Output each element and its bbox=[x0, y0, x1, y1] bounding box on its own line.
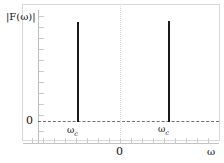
x-axis-label: ω bbox=[207, 147, 215, 157]
x-axis-tick bbox=[153, 138, 154, 143]
y-axis-line bbox=[38, 10, 39, 143]
y-axis-label: |F(ω)| bbox=[6, 12, 36, 22]
x-axis-tick bbox=[109, 138, 110, 143]
impulse-spike-positive-omega-c bbox=[168, 21, 170, 122]
y-axis-tick bbox=[39, 60, 44, 61]
zero-magnitude-baseline bbox=[38, 121, 219, 122]
x-axis-tick bbox=[32, 138, 33, 143]
magnitude-spectrum-figure: |F(ω)| 0 ωc ωc 0 ω bbox=[0, 0, 224, 163]
y-axis-tick bbox=[39, 82, 44, 83]
x-axis-tick bbox=[142, 138, 143, 143]
left-spike-subscript: c bbox=[74, 130, 78, 138]
x-axis-zero-label: 0 bbox=[116, 146, 123, 157]
x-axis-tick bbox=[208, 138, 209, 143]
y-axis-tick bbox=[39, 71, 44, 72]
y-axis-zero-label: 0 bbox=[26, 115, 33, 126]
impulse-spike-negative-omega-c bbox=[77, 22, 79, 122]
y-axis-tick bbox=[39, 16, 44, 17]
x-axis-tick bbox=[186, 138, 187, 143]
x-axis-tick-zero bbox=[120, 138, 121, 143]
y-axis-tick bbox=[39, 115, 44, 116]
x-axis-tick bbox=[131, 138, 132, 143]
x-axis-tick bbox=[54, 138, 55, 143]
y-axis-label-text: |F(ω)| bbox=[6, 11, 36, 22]
left-spike-label: ωc bbox=[67, 126, 78, 137]
right-spike-label: ωc bbox=[158, 125, 169, 136]
y-axis-tick bbox=[39, 38, 44, 39]
y-axis-tick bbox=[39, 104, 44, 105]
x-axis-tick bbox=[43, 138, 44, 143]
x-axis-tick bbox=[164, 138, 165, 143]
x-axis-tick bbox=[98, 138, 99, 143]
x-axis-line bbox=[23, 143, 219, 144]
x-axis-tick bbox=[87, 138, 88, 143]
x-axis-tick bbox=[65, 138, 66, 143]
y-axis-tick bbox=[39, 49, 44, 50]
y-axis-tick bbox=[39, 93, 44, 94]
right-spike-subscript: c bbox=[165, 129, 169, 137]
x-axis-tick bbox=[76, 138, 77, 143]
x-axis-tick bbox=[175, 138, 176, 143]
y-axis-tick bbox=[39, 27, 44, 28]
x-axis-tick bbox=[197, 138, 198, 143]
y-axis-tick bbox=[39, 131, 44, 132]
